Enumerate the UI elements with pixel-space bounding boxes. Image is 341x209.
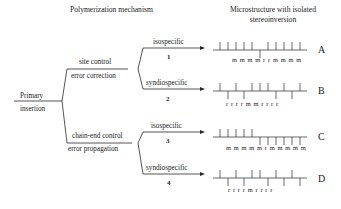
branch-error-correction-label: error correction (71, 73, 116, 80)
path-1-number: 1 (167, 54, 171, 61)
chain-b-sequence: r r r r m m r r r r (226, 101, 279, 107)
path-4-label: syndiospecific (146, 165, 188, 172)
result-label-c: C (318, 132, 325, 142)
result-label-b: B (318, 86, 325, 96)
path-1-label: isospecific (153, 39, 184, 46)
result-label-a: A (318, 45, 325, 55)
chain-d-sequence: r r r r m r r r r (228, 187, 273, 193)
arrowhead-1-icon (200, 46, 205, 50)
chain-c-sequence: m m m m m r m m m m m (226, 145, 306, 151)
path-2-number: 2 (166, 96, 170, 103)
path-3-label: isospecific (151, 123, 182, 130)
path-3-number: 3 (166, 138, 170, 145)
microstructure-header-line2: stereoinversion (218, 16, 328, 24)
branch-error-propagation-label: error propagation (68, 146, 118, 153)
arrowhead-2-icon (200, 87, 205, 91)
arrowhead-4-icon (200, 172, 205, 176)
arrowhead-3-icon (200, 130, 205, 134)
diagram-connectors (0, 0, 341, 209)
microstructure-header-line1: Microstructure with isolated (218, 6, 328, 14)
mechanism-header: Polymerization mechanism (70, 6, 153, 14)
branch-site-control-label: site control (79, 59, 111, 66)
stereocenter-ticks (220, 42, 300, 186)
path-4-number: 4 (167, 180, 171, 187)
chain-a-sequence: m m m m r r m m m m (232, 57, 302, 63)
path-2-label: syndiospecific (146, 80, 188, 87)
root-label-insertion: insertion (20, 106, 45, 113)
result-label-d: D (318, 174, 325, 184)
root-label-primary: Primary (20, 93, 43, 100)
branch-chain-end-control-label: chain-end control (72, 133, 123, 140)
